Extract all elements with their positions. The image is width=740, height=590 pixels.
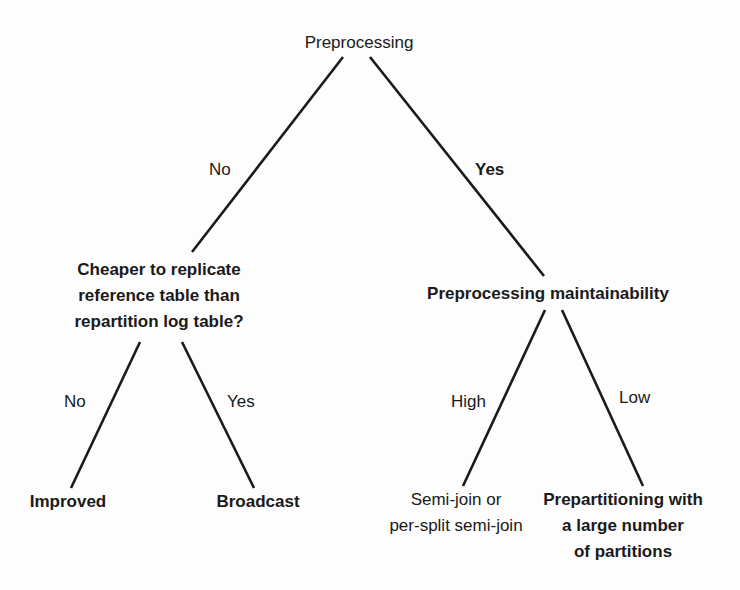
node-prepartitioning: Prepartitioning with a large number of p… — [543, 487, 703, 565]
node-cheaper-line-3: repartition log table? — [74, 309, 243, 335]
node-prepartitioning-line-2: a large number — [543, 513, 703, 539]
edge-label-maintainability-low: Low — [619, 388, 650, 408]
node-maintainability: Preprocessing maintainability — [427, 284, 669, 304]
node-root: Preprocessing — [305, 33, 414, 53]
node-semijoin: Semi-join or per-split semi-join — [389, 487, 522, 539]
edge-label-cheaper-no: No — [64, 392, 86, 412]
node-broadcast: Broadcast — [216, 492, 299, 512]
node-prepartitioning-line-1: Prepartitioning with — [543, 487, 703, 513]
edge-label-root-no: No — [209, 160, 231, 180]
node-prepartitioning-line-3: of partitions — [543, 539, 703, 565]
decision-tree-diagram: Preprocessing Cheaper to replicate refer… — [0, 0, 740, 590]
node-cheaper-line-2: reference table than — [74, 283, 243, 309]
node-improved: Improved — [30, 492, 107, 512]
edge-label-maintainability-high: High — [451, 392, 486, 412]
node-semijoin-line-1: Semi-join or — [389, 487, 522, 513]
node-semijoin-line-2: per-split semi-join — [389, 513, 522, 539]
edge-root-to-cheaper — [192, 57, 343, 252]
node-cheaper-question: Cheaper to replicate reference table tha… — [74, 257, 243, 335]
node-cheaper-line-1: Cheaper to replicate — [74, 257, 243, 283]
edge-cheaper-to-improved — [71, 342, 140, 488]
edge-root-to-maintainability — [370, 57, 544, 276]
edge-label-cheaper-yes: Yes — [227, 392, 255, 412]
edge-cheaper-to-broadcast — [182, 342, 254, 488]
edge-label-root-yes: Yes — [475, 160, 504, 180]
